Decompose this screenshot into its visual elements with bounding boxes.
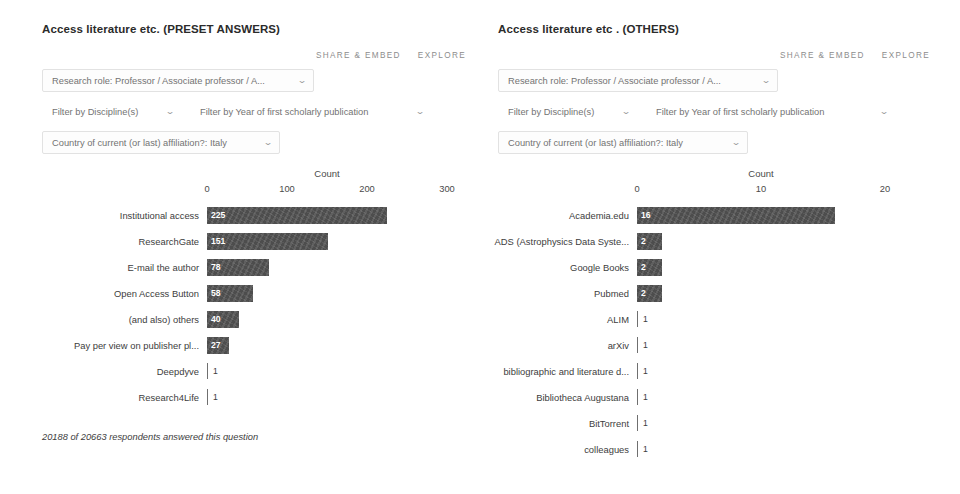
chart-bar-row[interactable]: BitTorrent1: [637, 410, 885, 436]
panel-preset-answers: Access literature etc. (PRESET ANSWERS) …: [0, 0, 480, 494]
chart-title: Count: [748, 168, 773, 179]
bar-category-label: Google Books: [570, 262, 629, 273]
chart-bar[interactable]: 1: [637, 363, 638, 379]
chart-plot-area: Institutional access225ResearchGate151E-…: [207, 202, 447, 410]
dashboard: Access literature etc. (PRESET ANSWERS) …: [0, 0, 960, 494]
bar-value-label: 1: [638, 314, 648, 324]
chart-footnote: 20188 of 20663 respondents answered this…: [42, 432, 480, 442]
chart-bar-row[interactable]: ResearchGate151: [207, 228, 447, 254]
bar-category-label: E-mail the author: [128, 262, 199, 273]
bar-value-label: 78: [207, 262, 221, 272]
bar-value-label: 1: [638, 418, 648, 428]
chart-bar-row[interactable]: arXiv1: [637, 332, 885, 358]
bar-chart-preset-answers: Count 0100200300 Institutional access225…: [42, 168, 480, 442]
bar-value-label: 16: [637, 210, 651, 220]
filter-research-role[interactable]: Research role: Professor / Associate pro…: [42, 69, 314, 92]
explore-button[interactable]: EXPLORE: [882, 51, 930, 60]
bar-category-label: Pay per view on publisher pl...: [74, 340, 199, 351]
x-axis-tick: 20: [880, 184, 890, 194]
bar-category-label: arXiv: [608, 340, 629, 351]
filter-research-role[interactable]: Research role: Professor / Associate pro…: [498, 69, 778, 92]
bar-category-label: ADS (Astrophysics Data Syste...: [495, 236, 629, 247]
share-and-embed-button[interactable]: SHARE & EMBED: [316, 51, 401, 60]
filter-row-role: Research role: Professor / Associate pro…: [498, 69, 960, 92]
chart-bar[interactable]: 16: [637, 207, 835, 224]
chart-bar[interactable]: 1: [637, 415, 638, 431]
chart-bar[interactable]: 151: [207, 233, 328, 250]
panel-actions: SHARE & EMBED EXPLORE: [498, 51, 960, 60]
chevron-down-icon: ⌄: [621, 108, 632, 116]
chart-bar[interactable]: 2: [637, 233, 662, 250]
bar-value-label: 1: [638, 340, 648, 350]
chart-bar-row[interactable]: E-mail the author78: [207, 254, 447, 280]
filter-research-role-value: Research role: Professor / Associate pro…: [52, 76, 265, 86]
chart-bar[interactable]: 1: [637, 311, 638, 327]
filter-year[interactable]: Filter by Year of first scholarly public…: [190, 100, 432, 123]
chart-bar-row[interactable]: Academia.edu16: [637, 202, 885, 228]
chart-bar-row[interactable]: (and also) others40: [207, 306, 447, 332]
chart-bar[interactable]: 40: [207, 311, 239, 328]
bar-value-label: 2: [637, 236, 646, 246]
chart-title: Count: [314, 168, 339, 179]
explore-button[interactable]: EXPLORE: [418, 51, 466, 60]
filter-discipline[interactable]: Filter by Discipline(s) ⌄: [498, 100, 638, 123]
chart-bar[interactable]: 1: [207, 389, 208, 405]
bar-category-label: ALIM: [607, 314, 629, 325]
bar-value-label: 1: [638, 444, 648, 454]
filter-row-country: Country of current (or last) affiliation…: [42, 131, 480, 154]
share-and-embed-button[interactable]: SHARE & EMBED: [780, 51, 865, 60]
filter-discipline[interactable]: Filter by Discipline(s) ⌄: [42, 100, 182, 123]
filter-country[interactable]: Country of current (or last) affiliation…: [498, 131, 748, 154]
chart-bar-row[interactable]: Research4Life1: [207, 384, 447, 410]
bar-category-label: colleagues: [584, 444, 629, 455]
bar-category-label: Deepdyve: [157, 366, 199, 377]
chart-axis: Count 01020: [637, 168, 885, 202]
chart-bar[interactable]: 1: [637, 337, 638, 353]
bar-value-label: 1: [208, 366, 218, 376]
filter-country[interactable]: Country of current (or last) affiliation…: [42, 131, 280, 154]
chart-bar[interactable]: 225: [207, 207, 387, 224]
chart-bar-row[interactable]: Open Access Button58: [207, 280, 447, 306]
chart-bar[interactable]: 27: [207, 337, 229, 354]
chart-bar-row[interactable]: ALIM1: [637, 306, 885, 332]
chart-bar-row[interactable]: ADS (Astrophysics Data Syste...2: [637, 228, 885, 254]
chart-plot-area: Academia.edu16ADS (Astrophysics Data Sys…: [637, 202, 885, 462]
chart-bar[interactable]: 78: [207, 259, 269, 276]
chart-bar[interactable]: 2: [637, 285, 662, 302]
chevron-down-icon: ⌄: [415, 108, 426, 116]
bar-category-label: Pubmed: [594, 288, 629, 299]
filter-year[interactable]: Filter by Year of first scholarly public…: [646, 100, 896, 123]
bar-value-label: 2: [637, 288, 646, 298]
chart-bar-row[interactable]: Institutional access225: [207, 202, 447, 228]
x-axis-tick: 0: [634, 184, 639, 194]
chart-bar[interactable]: 2: [637, 259, 662, 276]
chart-bar-row[interactable]: Google Books2: [637, 254, 885, 280]
chart-bar[interactable]: 58: [207, 285, 253, 302]
filter-row-discipline-year: Filter by Discipline(s) ⌄ Filter by Year…: [42, 100, 480, 123]
chart-bar-row[interactable]: Deepdyve1: [207, 358, 447, 384]
bar-category-label: Institutional access: [120, 210, 199, 221]
filter-country-value: Country of current (or last) affiliation…: [508, 138, 683, 148]
chevron-down-icon: ⌄: [165, 108, 176, 116]
chart-bar[interactable]: 1: [207, 363, 208, 379]
x-axis-tick: 200: [359, 184, 375, 194]
chart-bar[interactable]: 1: [637, 441, 638, 457]
bar-category-label: bibliographic and literature d...: [503, 366, 629, 377]
chevron-down-icon: ⌄: [297, 77, 308, 85]
bar-value-label: 225: [207, 210, 225, 220]
chart-bar-row[interactable]: Pubmed2: [637, 280, 885, 306]
panel-actions: SHARE & EMBED EXPLORE: [42, 51, 480, 60]
filter-research-role-value: Research role: Professor / Associate pro…: [508, 76, 721, 86]
x-axis-tick: 10: [756, 184, 766, 194]
chart-bar-row[interactable]: bibliographic and literature d...1: [637, 358, 885, 384]
chart-bar-row[interactable]: colleagues1: [637, 436, 885, 462]
bar-value-label: 40: [207, 314, 221, 324]
chart-bar-row[interactable]: Pay per view on publisher pl...27: [207, 332, 447, 358]
chart-axis: Count 0100200300: [207, 168, 447, 202]
bar-category-label: Academia.edu: [569, 210, 629, 221]
chevron-down-icon: ⌄: [879, 108, 890, 116]
chart-bar[interactable]: 1: [637, 389, 638, 405]
chart-bar-row[interactable]: Bibliotheca Augustana1: [637, 384, 885, 410]
bar-value-label: 151: [207, 236, 225, 246]
bar-value-label: 1: [208, 392, 218, 402]
